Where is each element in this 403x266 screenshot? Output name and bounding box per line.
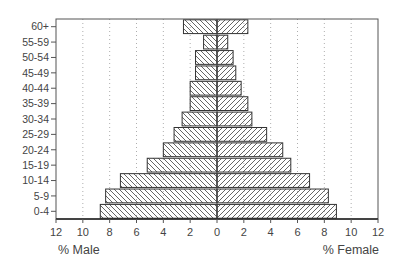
bar-female-35-39 <box>217 97 248 111</box>
x-tick-label: 0 <box>214 226 220 238</box>
x-tick-label: 10 <box>345 226 357 238</box>
bar-male-15-19 <box>147 158 217 172</box>
y-tick-label: 35-39 <box>22 97 49 109</box>
bar-male-0-4 <box>100 204 217 218</box>
bar-male-30-34 <box>182 112 217 126</box>
bars <box>100 19 336 219</box>
bar-male-55-59 <box>204 35 217 49</box>
bar-female-15-19 <box>217 158 291 172</box>
y-tick-label: 25-29 <box>22 128 49 140</box>
bar-female-30-34 <box>217 112 252 126</box>
population-pyramid-chart: 60+55-5950-5445-4940-4435-3930-3425-2920… <box>0 0 403 266</box>
x-tick-label: 6 <box>294 226 300 238</box>
y-tick-label: 30-34 <box>22 113 49 125</box>
bar-female-50-54 <box>217 51 233 65</box>
x-tick-label: 4 <box>160 226 166 238</box>
bar-male-5-9 <box>106 189 217 203</box>
x-tick-label: 10 <box>77 226 89 238</box>
y-tick-label: 5-9 <box>34 190 49 202</box>
bar-female-5-9 <box>217 189 328 203</box>
y-tick-label: 55-59 <box>22 36 49 48</box>
y-tick-label: 50-54 <box>22 51 49 63</box>
x-tick-label: 4 <box>268 226 274 238</box>
x-axis-title-male: % Male <box>58 243 100 257</box>
y-tick-label: 0-4 <box>34 205 49 217</box>
y-tick-label: 20-24 <box>22 144 49 156</box>
bar-male-60+ <box>183 20 217 34</box>
x-tick-label: 2 <box>241 226 247 238</box>
bar-male-45-49 <box>196 66 217 80</box>
x-axis: 12108642024681012 <box>50 219 384 238</box>
y-axis: 60+55-5950-5445-4940-4435-3930-3425-2920… <box>22 20 56 217</box>
bar-male-35-39 <box>190 97 217 111</box>
bar-male-25-29 <box>174 127 217 141</box>
bar-female-45-49 <box>217 66 236 80</box>
bar-male-50-54 <box>196 51 217 65</box>
x-tick-label: 6 <box>133 226 139 238</box>
bar-female-0-4 <box>217 204 336 218</box>
y-tick-label: 60+ <box>31 20 49 32</box>
bar-female-20-24 <box>217 143 283 157</box>
x-tick-label: 12 <box>50 226 62 238</box>
x-tick-label: 8 <box>107 226 113 238</box>
bar-female-10-14 <box>217 174 310 188</box>
y-tick-label: 45-49 <box>22 67 49 79</box>
y-tick-label: 40-44 <box>22 82 49 94</box>
bar-male-20-24 <box>163 143 217 157</box>
x-tick-label: 8 <box>321 226 327 238</box>
bar-female-60+ <box>217 20 248 34</box>
x-tick-label: 12 <box>372 226 384 238</box>
bar-female-55-59 <box>217 35 228 49</box>
bar-female-25-29 <box>217 127 267 141</box>
bar-male-10-14 <box>120 174 217 188</box>
bar-female-40-44 <box>217 81 241 95</box>
x-tick-label: 2 <box>187 226 193 238</box>
y-tick-label: 10-14 <box>22 174 49 186</box>
bar-male-40-44 <box>190 81 217 95</box>
y-tick-label: 15-19 <box>22 159 49 171</box>
x-axis-title-female: % Female <box>323 243 379 257</box>
